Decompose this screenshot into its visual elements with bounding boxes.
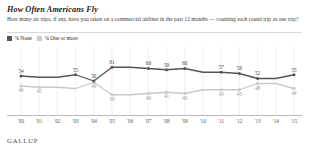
- data-point: [20, 75, 23, 78]
- x-axis-label: '07: [145, 118, 151, 124]
- chart-plot-area: 5455506160596057565255464549394041404343…: [7, 46, 302, 116]
- data-point: [220, 71, 223, 74]
- x-axis-label: '08: [164, 118, 170, 124]
- data-point: [256, 77, 259, 80]
- x-axis-labels: '00'01'02'03'04'05'06'07'08'09'10'11'12'…: [7, 118, 302, 128]
- data-point: [183, 67, 186, 70]
- x-axis-label: '00: [18, 118, 24, 124]
- data-point: [165, 68, 168, 71]
- gallup-brand: GALLUP: [7, 137, 38, 144]
- line-chart-svg: 5455506160596057565255464549394041404343…: [7, 46, 302, 116]
- data-label: 57: [219, 64, 225, 70]
- data-label: 54: [18, 68, 24, 74]
- data-label: 46: [18, 87, 24, 93]
- data-label: 52: [255, 70, 261, 76]
- data-point: [147, 67, 150, 70]
- data-label: 48: [255, 85, 261, 91]
- data-label: 56: [237, 65, 243, 71]
- data-label: 59: [164, 62, 170, 68]
- data-point: [111, 66, 114, 69]
- data-point: [238, 72, 241, 75]
- page-title: How Often Americans Fly: [7, 5, 98, 14]
- data-label: 61: [109, 59, 115, 65]
- data-label: 43: [219, 91, 225, 97]
- legend-item-one-or-more: % One or more: [37, 35, 78, 41]
- legend-swatch-one-or-more: [37, 36, 42, 41]
- x-axis-label: '09: [182, 118, 188, 124]
- data-label: 55: [291, 67, 297, 73]
- data-label: 49: [91, 83, 97, 89]
- series-line--one-or-more: [21, 82, 294, 95]
- x-axis-label: '13: [255, 118, 261, 124]
- data-label: 39: [109, 96, 115, 102]
- data-label: 50: [91, 73, 97, 79]
- data-label: 60: [182, 60, 188, 66]
- series-line--none: [21, 67, 294, 81]
- data-label: 40: [182, 95, 188, 101]
- data-label: 40: [146, 95, 152, 101]
- data-label: 45: [37, 88, 43, 94]
- chart-subtitle: How many air trips, if any, have you tak…: [7, 16, 299, 23]
- x-axis-label: '10: [200, 118, 206, 124]
- x-axis-label: '15: [291, 118, 297, 124]
- x-axis-label: '04: [91, 118, 97, 124]
- x-axis-label: '02: [54, 118, 60, 124]
- x-axis-label: '12: [236, 118, 242, 124]
- x-axis-label: '03: [73, 118, 79, 124]
- legend-item-none: % None: [7, 35, 32, 41]
- chart-legend: % None % One or more: [7, 35, 78, 41]
- data-label: 41: [164, 93, 170, 99]
- legend-swatch-none: [7, 36, 12, 41]
- data-point: [92, 80, 95, 83]
- data-label: 43: [237, 91, 243, 97]
- x-axis-label: '14: [273, 118, 279, 124]
- data-point: [293, 73, 296, 76]
- chart-page: How Often Americans Fly How many air tri…: [0, 0, 309, 155]
- x-axis-label: '11: [218, 118, 224, 124]
- legend-label-none: % None: [15, 35, 33, 41]
- data-label: 60: [146, 60, 152, 66]
- x-axis-label: '05: [109, 118, 115, 124]
- data-label: 55: [73, 67, 79, 73]
- legend-label-one-or-more: % One or more: [45, 35, 78, 41]
- data-point: [74, 73, 77, 76]
- x-axis-label: '06: [127, 118, 133, 124]
- x-axis-line: [7, 115, 302, 116]
- x-axis-label: '01: [36, 118, 42, 124]
- header-divider: [7, 32, 302, 33]
- data-label: 44: [291, 90, 297, 96]
